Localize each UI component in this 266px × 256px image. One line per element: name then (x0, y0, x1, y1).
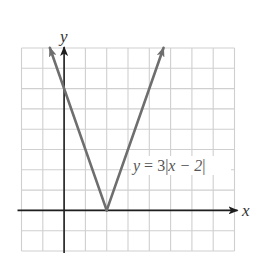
equation-bar-close: | (202, 157, 205, 175)
equation-equals-3: = 3 (140, 157, 165, 174)
y-axis-label: y (58, 27, 68, 46)
labels: y x y = 3|x − 2| (58, 27, 250, 220)
equation-inner: x − 2 (167, 157, 202, 174)
equation-label: y = 3|x − 2| (131, 157, 205, 175)
x-axis-label: x (241, 201, 250, 220)
graph-figure: y x y = 3|x − 2| (0, 0, 266, 256)
coordinate-plane: y x y = 3|x − 2| (0, 0, 266, 256)
